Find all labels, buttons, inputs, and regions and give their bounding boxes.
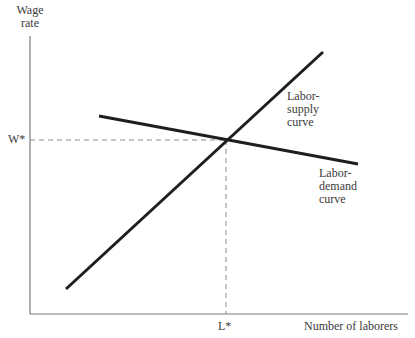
- labor-supply-curve: [66, 52, 323, 289]
- demand-label-line3: curve: [319, 193, 357, 206]
- y-axis-label-line2: rate: [6, 17, 54, 30]
- demand-curve-label: Labor- demand curve: [319, 167, 357, 206]
- w-star-label: W*: [8, 133, 25, 146]
- y-axis-label: Wage rate: [6, 4, 54, 30]
- l-star-label: L*: [218, 320, 231, 333]
- x-axis-label: Number of laborers: [304, 320, 398, 333]
- supply-label-line3: curve: [287, 116, 319, 129]
- supply-curve-label: Labor- supply curve: [287, 90, 319, 129]
